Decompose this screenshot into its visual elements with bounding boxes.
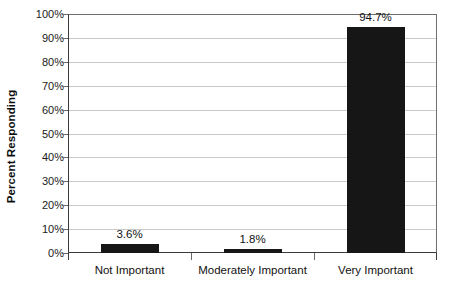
x-axis-tick-labels: Not ImportantModerately ImportantVery Im… [68,264,437,284]
x-axis-category-label: Moderately Important [198,264,307,276]
y-axis-tick-label: 70% [26,80,64,92]
bar [347,27,405,253]
bars-layer: 3.6%1.8%94.7% [68,14,437,253]
bar-chart-figure: Percent Responding 0%10%20%30%40%50%60%7… [0,0,454,293]
bar [224,249,282,253]
y-axis-tick-label: 100% [26,8,64,20]
x-axis-end-tick-mark [68,253,69,260]
bar-data-label: 1.8% [239,233,265,245]
y-axis-tick-labels: 0%10%20%30%40%50%60%70%80%90%100% [26,14,64,253]
y-axis-tick-label: 60% [26,104,64,116]
x-axis-end-tick-mark [436,253,437,260]
bar-data-label: 94.7% [359,11,392,23]
bar-data-label: 3.6% [116,228,142,240]
y-axis-tick-label: 90% [26,32,64,44]
bar [101,244,159,253]
y-axis-tick-label: 80% [26,56,64,68]
x-axis-tick-mark [314,253,315,260]
x-axis-category-label: Very Important [338,264,413,276]
y-axis-tick-label: 10% [26,223,64,235]
y-axis-title: Percent Responding [0,0,22,293]
y-axis-tick-label: 30% [26,175,64,187]
y-axis-tick-label: 20% [26,199,64,211]
x-axis-category-label: Not Important [95,264,165,276]
y-axis-tick-label: 40% [26,151,64,163]
y-axis-tick-label: 50% [26,128,64,140]
x-axis-tick-mark [191,253,192,260]
y-axis-tick-label: 0% [26,247,64,259]
